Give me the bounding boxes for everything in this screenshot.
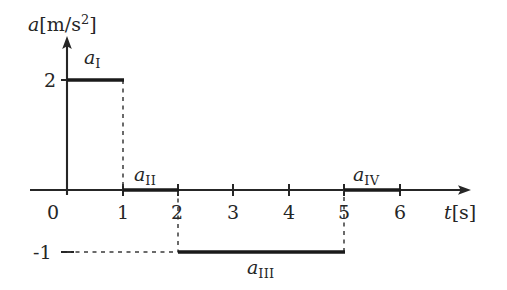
segment-a2-symbol: a (134, 163, 145, 185)
dashed-connectors (67, 80, 344, 252)
step-segments (67, 80, 401, 252)
segment-label-a4: aIV (353, 165, 379, 187)
segment-a4-symbol: a (353, 163, 364, 185)
x-tick-label-3: 3 (227, 203, 239, 222)
x-tick-label-6: 6 (394, 203, 406, 222)
x-tick-label-1: 1 (117, 203, 129, 222)
y-axis-unit: m/s (47, 13, 81, 35)
x-axis (30, 185, 471, 195)
y-tick-label-minus1: -1 (33, 243, 52, 262)
segment-a2-numeral: II (145, 173, 156, 188)
segment-a1-symbol: a (84, 46, 95, 68)
segment-label-a2: aII (134, 165, 156, 187)
x-tick-label-5: 5 (338, 203, 350, 222)
y-axis (62, 36, 72, 195)
segment-label-a1: aI (84, 48, 101, 70)
x-tick-label-2: 2 (171, 203, 183, 222)
segment-label-a3: aIII (247, 258, 274, 280)
acceleration-time-figure: a[m/s2] t[s] 2 -1 0 1 2 3 4 5 6 aI aII a… (0, 0, 507, 290)
x-axis-title: t[s] (444, 203, 476, 222)
graph-canvas (0, 0, 507, 290)
segment-a3-numeral: III (258, 266, 274, 281)
y-axis-symbol: a (28, 13, 39, 35)
segment-a3-symbol: a (247, 256, 258, 278)
origin-label: 0 (47, 203, 59, 222)
x-axis-unit: s (459, 201, 469, 223)
y-axis-unit-exponent: 2 (81, 12, 89, 27)
segment-a1-numeral: I (95, 56, 100, 71)
y-axis-title: a[m/s2] (28, 14, 97, 34)
x-axis-symbol: t (444, 201, 452, 223)
x-tick-label-4: 4 (283, 203, 295, 222)
y-tick-label-2: 2 (44, 71, 56, 90)
segment-a4-numeral: IV (364, 173, 379, 188)
